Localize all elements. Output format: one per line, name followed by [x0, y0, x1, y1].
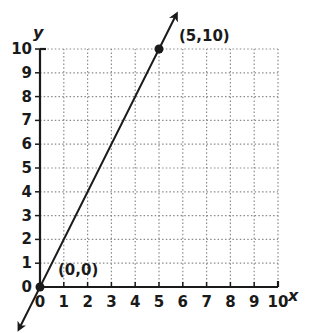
data-point	[155, 45, 164, 54]
data-point	[36, 283, 45, 292]
y-tick-label: 10	[11, 40, 32, 58]
x-tick-label: 3	[106, 293, 116, 311]
x-tick-label: 1	[59, 293, 69, 311]
y-tick-label: 5	[22, 159, 32, 177]
x-tick-label: 6	[178, 293, 188, 311]
y-tick-label: 9	[22, 64, 32, 82]
data-points: (0,0)(5,10)	[36, 27, 230, 292]
x-tick-label: 2	[82, 293, 92, 311]
x-axis-title: x	[287, 286, 299, 305]
y-tick-label: 1	[22, 254, 32, 272]
x-tick-label: 8	[225, 293, 235, 311]
x-tick-label: 4	[130, 293, 140, 311]
y-tick-label: 3	[22, 207, 32, 225]
x-tick-label: 5	[154, 293, 164, 311]
point-label: (0,0)	[58, 261, 98, 279]
x-tick-label: 7	[201, 293, 211, 311]
y-tick-label: 8	[22, 88, 32, 106]
y-tick-label: 6	[22, 135, 32, 153]
y-tick-label: 4	[22, 183, 32, 201]
series-line	[19, 15, 176, 328]
y-tick-label: 7	[22, 111, 32, 129]
y-tick-label: 0	[22, 278, 32, 296]
x-tick-label: 9	[249, 293, 259, 311]
y-tick-label: 2	[22, 230, 32, 248]
line-graph: 012345678910012345678910 (0,0)(5,10) x y	[0, 0, 318, 333]
point-label: (5,10)	[179, 27, 230, 45]
y-axis-title: y	[33, 23, 44, 42]
x-tick-label: 10	[268, 293, 289, 311]
tick-labels: 012345678910012345678910	[11, 40, 288, 311]
grid	[40, 49, 278, 287]
data-line	[19, 15, 176, 328]
